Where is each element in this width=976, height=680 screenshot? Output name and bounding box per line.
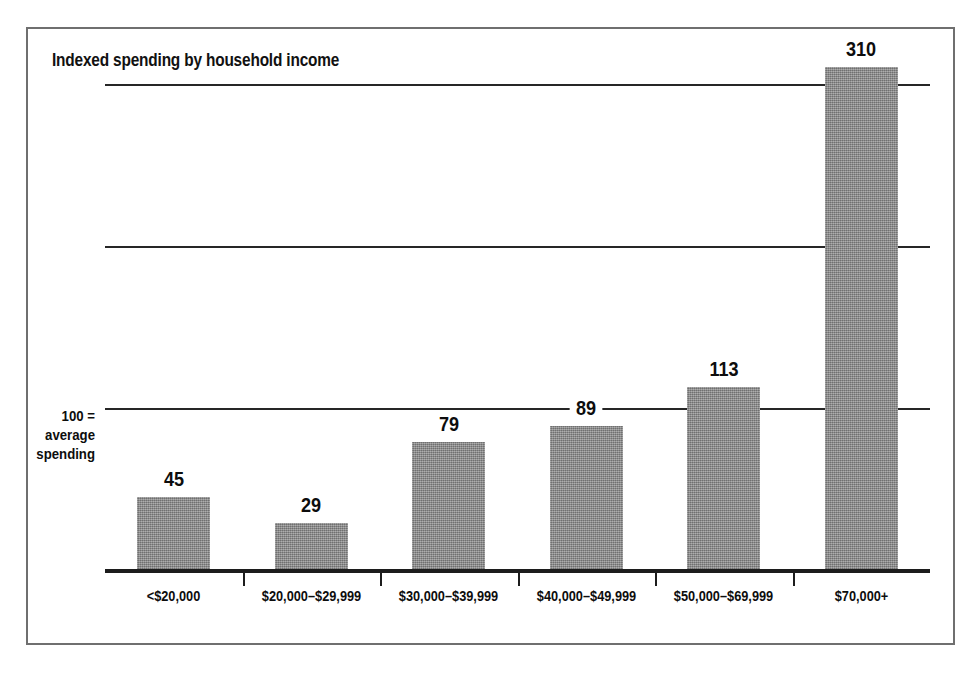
category-label: $70,000+	[801, 588, 922, 604]
bar	[550, 426, 623, 570]
category-label: $20,000–$29,999	[251, 588, 372, 604]
category-label: <$20,000	[113, 588, 234, 604]
plot-area: 45297989113310	[105, 100, 930, 570]
category-label: $30,000–$39,999	[388, 588, 509, 604]
x-axis-tick	[793, 573, 795, 586]
baseline-annotation-line-2: average	[0, 425, 95, 444]
bar-value-label: 89	[539, 396, 634, 420]
category-label: $40,000–$49,999	[526, 588, 647, 604]
gridline-200	[105, 246, 930, 248]
bar-value-label: 45	[126, 467, 221, 491]
bar-value-label: 113	[676, 357, 771, 381]
bar	[412, 442, 485, 570]
bar	[687, 387, 760, 570]
bar-value-label: 79	[401, 412, 496, 436]
x-axis-tick	[518, 573, 520, 586]
bar	[825, 67, 898, 570]
baseline-annotation-line-3: spending	[0, 444, 95, 463]
chart-figure: Indexed spending by household income 100…	[0, 0, 976, 680]
category-label: $50,000–$69,999	[663, 588, 784, 604]
bar	[137, 497, 210, 570]
baseline-annotation-line-1: 100 =	[0, 406, 95, 425]
bar-value-label: 29	[264, 493, 359, 517]
gridline-300	[105, 84, 930, 86]
bar-value-label: 310	[814, 37, 909, 61]
bar	[275, 523, 348, 570]
gridline-100	[105, 408, 930, 410]
x-axis-tick	[380, 573, 382, 586]
x-axis-tick	[655, 573, 657, 586]
chart-title: Indexed spending by household income	[52, 50, 339, 71]
x-axis-tick	[243, 573, 245, 586]
baseline-average-annotation: 100 = average spending	[0, 406, 95, 463]
